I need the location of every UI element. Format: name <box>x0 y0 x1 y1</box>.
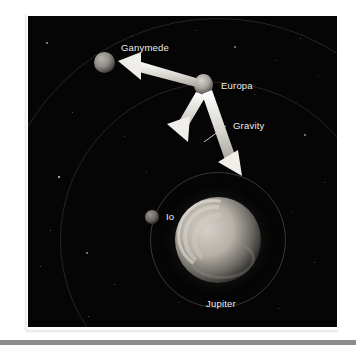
arrow-gravity <box>202 90 242 176</box>
arrow-short-down <box>167 92 206 142</box>
label-io: Io <box>166 211 174 222</box>
label-jupiter: Jupiter <box>206 298 236 309</box>
page-edge-bottom <box>26 330 338 333</box>
label-europa: Europa <box>221 80 253 91</box>
arrow-overlay <box>28 16 337 327</box>
arrow-to-ganymede <box>118 52 200 88</box>
bottom-rule <box>0 340 356 345</box>
page-edge-left <box>24 14 27 330</box>
label-ganymede: Ganymede <box>121 42 169 53</box>
page-canvas: Ganymede Europa Gravity Io Jupiter <box>0 0 356 345</box>
astronomy-illustration: Ganymede Europa Gravity Io Jupiter <box>28 16 337 327</box>
label-gravity: Gravity <box>233 120 265 131</box>
